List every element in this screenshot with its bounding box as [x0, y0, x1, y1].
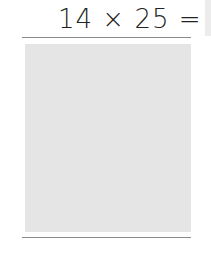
answer-area[interactable]	[25, 44, 191, 232]
math-problem: 14 × 25 =	[58, 2, 198, 36]
edge-panel	[205, 0, 211, 36]
bottom-divider	[22, 237, 191, 238]
top-divider	[22, 37, 191, 38]
